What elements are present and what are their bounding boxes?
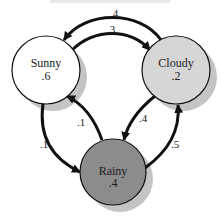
rainy-prob: .4	[109, 176, 118, 190]
edge-rainy-to-cloudy	[145, 105, 178, 168]
cropped-title	[50, 0, 170, 3]
sunny-name: Sunny	[31, 56, 62, 70]
sunny-prob: .6	[42, 69, 51, 83]
label-cloudy-to-rainy: .4	[139, 112, 148, 124]
label-cloudy-to-sunny: .4	[110, 7, 119, 19]
label-rainy-to-cloudy: .5	[171, 138, 180, 150]
state-sunny: Sunny .6	[12, 36, 80, 104]
edge-sunny-to-cloudy	[72, 34, 150, 51]
state-cloudy: Cloudy .2	[142, 36, 210, 104]
cloudy-prob: .2	[172, 69, 181, 83]
label-sunny-to-rainy: .1	[40, 138, 48, 150]
label-rainy-to-sunny: .1	[77, 116, 85, 128]
label-sunny-to-cloudy: .3	[107, 23, 116, 35]
cloudy-name: Cloudy	[158, 56, 193, 70]
markov-diagram: .4 .3 .1 .1 .4 .5 Sunny .6 Cloudy .2 Rai…	[0, 0, 222, 221]
state-rainy: Rainy .4	[80, 139, 146, 205]
